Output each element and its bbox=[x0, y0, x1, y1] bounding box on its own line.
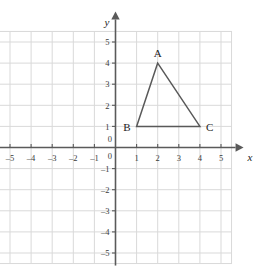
coordinate-plane-svg: –5–4–3–2–112345–5–4–3–2–112345 ABC x y 0… bbox=[0, 0, 267, 278]
x-tick-label: 2 bbox=[156, 153, 160, 163]
x-tick-label: 3 bbox=[177, 153, 181, 163]
y-tick-label: –2 bbox=[100, 185, 110, 195]
x-tick-label: –3 bbox=[47, 153, 57, 163]
y-tick-label: 3 bbox=[105, 79, 109, 89]
x-tick-label: –2 bbox=[68, 153, 78, 163]
y-tick-label: –4 bbox=[100, 227, 110, 237]
origin-zero-label-y: 0 bbox=[108, 134, 112, 144]
origin-zero-label-x: 0 bbox=[108, 151, 112, 161]
y-axis-label: y bbox=[104, 16, 110, 28]
x-tick-label: –4 bbox=[26, 153, 36, 163]
vertex-label-c: C bbox=[206, 121, 213, 133]
y-tick-label: 5 bbox=[105, 37, 109, 47]
x-tick-label: –5 bbox=[5, 153, 15, 163]
vertex-label-a: A bbox=[154, 47, 162, 59]
x-tick-label: –1 bbox=[89, 153, 99, 163]
vertex-label-b: B bbox=[123, 121, 130, 133]
x-tick-label: 4 bbox=[198, 153, 203, 163]
x-tick-label: 1 bbox=[134, 153, 138, 163]
x-axis-label: x bbox=[247, 151, 253, 163]
y-tick-label: 2 bbox=[105, 101, 109, 111]
y-tick-label: –3 bbox=[100, 206, 110, 216]
y-tick-label: 1 bbox=[105, 122, 109, 132]
y-tick-label: –1 bbox=[100, 164, 110, 174]
y-tick-label: –5 bbox=[100, 248, 110, 258]
coordinate-plane-figure: –5–4–3–2–112345–5–4–3–2–112345 ABC x y 0… bbox=[0, 0, 267, 278]
x-tick-label: 5 bbox=[219, 153, 223, 163]
